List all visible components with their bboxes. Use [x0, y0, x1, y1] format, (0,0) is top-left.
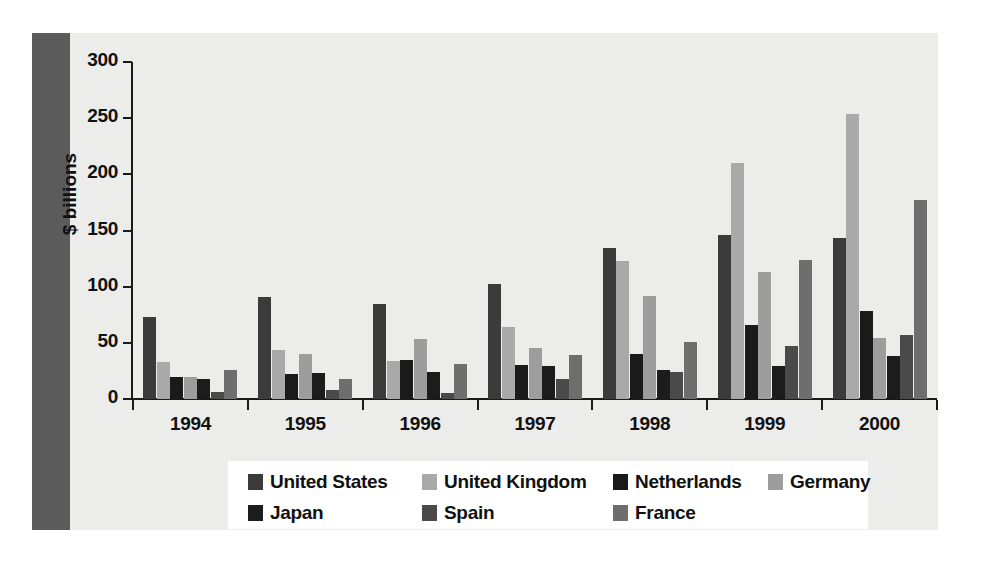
- plot-area: $ billions 050100150200250300 1994199519…: [32, 33, 938, 530]
- bar: [515, 365, 528, 399]
- bar: [616, 261, 629, 399]
- bar: [312, 373, 325, 399]
- y-axis-tick: [123, 61, 132, 63]
- legend-swatch-icon: [248, 505, 263, 521]
- bar: [326, 390, 339, 399]
- bar: [224, 370, 237, 399]
- bar: [414, 339, 427, 399]
- bar: [373, 304, 386, 399]
- bar: [643, 296, 656, 399]
- y-axis-tick: [123, 286, 132, 288]
- legend-swatch-icon: [248, 474, 263, 490]
- legend-label: France: [635, 502, 696, 524]
- bar: [900, 335, 913, 399]
- y-axis-tick: [123, 117, 132, 119]
- x-axis-tick: [247, 400, 249, 410]
- bar: [860, 311, 873, 399]
- bar: [657, 370, 670, 399]
- bar: [339, 379, 352, 399]
- bar: [799, 260, 812, 399]
- bar: [170, 377, 183, 399]
- x-axis-tick: [706, 400, 708, 410]
- y-axis-tick-label: 100: [62, 274, 118, 296]
- legend-label: Japan: [270, 502, 323, 524]
- x-axis-tick-label: 2000: [835, 413, 925, 435]
- bar: [745, 325, 758, 399]
- y-tick-label-group: 050100150200250300: [50, 33, 118, 433]
- legend-row: JapanSpainFrance: [228, 498, 868, 528]
- legend-item[interactable]: Germany: [768, 467, 870, 497]
- legend-item[interactable]: United Kingdom: [422, 467, 587, 497]
- bar: [556, 379, 569, 399]
- y-axis-tick-label: 150: [62, 218, 118, 240]
- legend-swatch-icon: [613, 474, 628, 490]
- legend-swatch-icon: [768, 474, 783, 490]
- bar: [684, 342, 697, 399]
- legend-item[interactable]: France: [613, 498, 696, 528]
- bar: [603, 248, 616, 399]
- bar: [272, 350, 285, 399]
- legend-label: United Kingdom: [444, 471, 587, 493]
- bar: [833, 238, 846, 399]
- legend-item[interactable]: United States: [248, 467, 388, 497]
- legend-label: Netherlands: [635, 471, 742, 493]
- bar: [914, 200, 927, 399]
- bar: [211, 392, 224, 399]
- bar: [529, 348, 542, 399]
- x-axis-tick-label: 1994: [145, 413, 235, 435]
- bar: [143, 317, 156, 399]
- y-axis-tick: [123, 398, 132, 400]
- legend-swatch-icon: [422, 505, 437, 521]
- bar: [427, 372, 440, 399]
- bar: [441, 393, 454, 399]
- bar: [184, 377, 197, 399]
- y-axis-tick-label: 250: [62, 105, 118, 127]
- bar: [887, 356, 900, 399]
- x-axis-tick-label: 1997: [490, 413, 580, 435]
- chart-figure: $ billions 050100150200250300 1994199519…: [32, 33, 938, 530]
- bar: [197, 379, 210, 399]
- bar: [157, 362, 170, 399]
- bar: [488, 284, 501, 399]
- x-axis-tick-label: 1998: [605, 413, 695, 435]
- bar: [758, 272, 771, 399]
- legend-item[interactable]: Spain: [422, 498, 494, 528]
- x-axis-tick-label: 1999: [720, 413, 810, 435]
- bar: [542, 366, 555, 399]
- bar: [285, 374, 298, 399]
- y-axis-tick: [123, 230, 132, 232]
- x-axis-tick: [591, 400, 593, 410]
- y-axis-tick-label: 50: [62, 330, 118, 352]
- bar: [846, 114, 859, 399]
- x-axis-tick: [132, 400, 134, 410]
- bar: [772, 366, 785, 399]
- y-axis-tick-label: 300: [62, 49, 118, 71]
- bar: [387, 361, 400, 399]
- bar: [873, 338, 886, 399]
- bar: [718, 235, 731, 399]
- y-axis-tick-label: 0: [62, 386, 118, 408]
- legend-swatch-icon: [422, 474, 437, 490]
- legend-swatch-icon: [613, 505, 628, 521]
- legend-item[interactable]: Netherlands: [613, 467, 742, 497]
- bar: [454, 364, 467, 399]
- bar: [258, 297, 271, 399]
- x-axis-tick: [362, 400, 364, 410]
- bar: [670, 372, 683, 399]
- legend-item[interactable]: Japan: [248, 498, 323, 528]
- legend-label: United States: [270, 471, 388, 493]
- bar: [299, 354, 312, 399]
- chart-legend: United StatesUnited KingdomNetherlandsGe…: [228, 461, 868, 529]
- bar: [569, 355, 582, 399]
- y-axis-tick: [123, 342, 132, 344]
- bar: [630, 354, 643, 399]
- x-axis-tick: [936, 400, 938, 410]
- legend-label: Germany: [790, 471, 870, 493]
- y-axis-tick-label: 200: [62, 161, 118, 183]
- x-axis-tick: [477, 400, 479, 410]
- bar: [502, 327, 515, 399]
- bar: [731, 163, 744, 399]
- legend-row: United StatesUnited KingdomNetherlandsGe…: [228, 467, 868, 497]
- legend-label: Spain: [444, 502, 494, 524]
- bar: [785, 346, 798, 399]
